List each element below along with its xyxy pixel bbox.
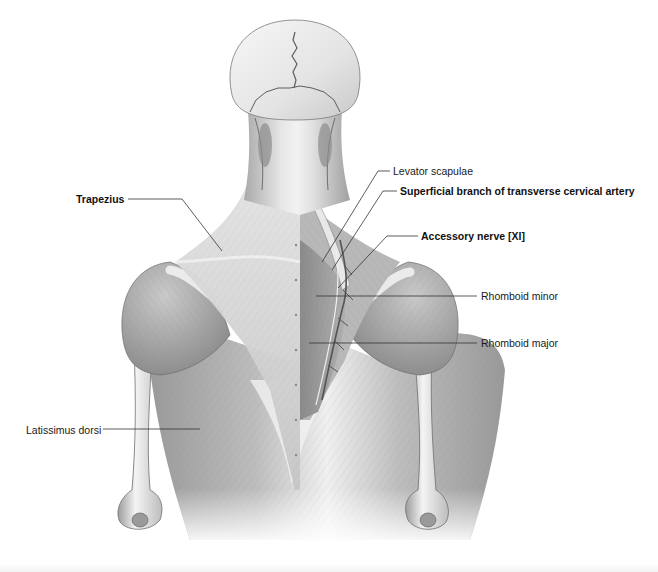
label-levator-scapulae: Levator scapulae [393,165,473,177]
label-rhomboid-major: Rhomboid major [481,337,558,349]
skull [230,20,360,120]
back-muscles-illustration [0,0,658,572]
label-rhomboid-minor: Rhomboid minor [481,290,558,302]
bottom-edge [0,564,658,572]
label-trapezius: Trapezius [76,193,124,205]
label-accessory-nerve: Accessory nerve [XI] [421,230,525,242]
label-superficial-branch-tca: Superficial branch of transverse cervica… [400,185,635,197]
label-latissimus-dorsi: Latissimus dorsi [26,424,101,436]
